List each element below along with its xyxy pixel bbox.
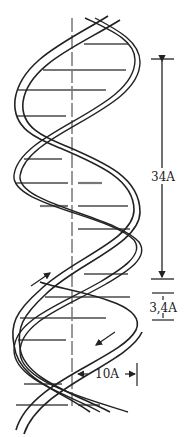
front-strand — [13, 16, 142, 434]
dna-helix-diagram: 34A 3,4A 10A — [0, 0, 189, 437]
radius-label: 10A — [95, 367, 119, 381]
pitch-label: 34A — [151, 170, 175, 184]
strand-direction-arrow-down — [96, 332, 115, 345]
base-spacing-label: 3,4A — [149, 301, 177, 315]
